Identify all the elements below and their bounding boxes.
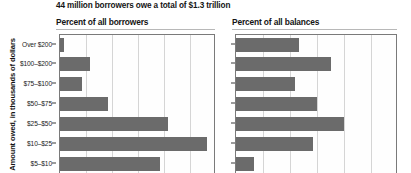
gridline <box>190 35 191 173</box>
y-axis-category-labels: Over $200$100–$200$75–$100$50–$75$25–$50… <box>12 34 56 173</box>
bar <box>236 117 344 131</box>
chart-panel-balances <box>235 34 397 173</box>
y-axis-tick <box>52 143 56 144</box>
y-axis-label: $75–$100 <box>23 80 52 87</box>
gridline <box>317 35 318 173</box>
bar <box>236 97 317 111</box>
y-axis-label: Over $200 <box>22 40 52 47</box>
y-axis-tick-right <box>231 83 235 84</box>
y-axis-tick-right <box>231 63 235 64</box>
bar <box>60 117 168 131</box>
gridline <box>112 35 113 173</box>
panel-rule-left <box>56 29 215 30</box>
y-axis-tick <box>52 103 56 104</box>
y-axis-tick-right <box>231 123 235 124</box>
y-axis-label: $10–$25 <box>27 140 52 147</box>
gridline <box>138 35 139 173</box>
y-axis-label: $25–$50 <box>27 120 52 127</box>
bar <box>236 77 295 91</box>
y-axis-tick-right <box>231 143 235 144</box>
bar <box>236 38 299 52</box>
gridline <box>164 35 165 173</box>
bar <box>60 137 207 151</box>
chart-figure: 44 million borrowers owe a total of $1.3… <box>0 0 411 173</box>
bar <box>236 157 254 171</box>
y-axis-tick <box>52 63 56 64</box>
y-axis-tick <box>52 83 56 84</box>
y-axis-label: $100–$200 <box>20 60 52 67</box>
chart-panel-borrowers <box>59 34 215 173</box>
bar <box>60 97 108 111</box>
bar <box>60 157 160 171</box>
panel-header-borrowers: Percent of all borrowers <box>56 17 148 27</box>
right-panel-ticks <box>235 34 236 173</box>
bar <box>60 77 82 91</box>
y-axis-tick <box>52 162 56 163</box>
gridline <box>371 35 372 173</box>
y-axis-tick <box>52 43 56 44</box>
panel-rule-right <box>232 29 397 30</box>
panel-header-balances: Percent of all balances <box>232 17 319 27</box>
figure-title: 44 million borrowers owe a total of $1.3… <box>56 1 230 10</box>
gridline <box>344 35 345 173</box>
bar <box>60 38 64 52</box>
y-axis-tick-right <box>231 162 235 163</box>
y-axis-tick-right <box>231 103 235 104</box>
y-axis-label: $50–$75 <box>27 100 52 107</box>
y-axis-label: $5–$10 <box>31 159 52 166</box>
bar <box>236 57 331 71</box>
y-axis-tick-right <box>231 43 235 44</box>
bar <box>236 137 313 151</box>
bar <box>60 57 90 71</box>
y-axis-tick <box>52 123 56 124</box>
